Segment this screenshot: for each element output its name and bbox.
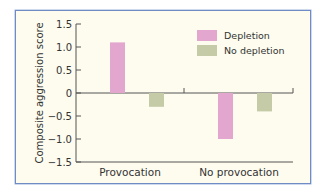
category-label: Provocation: [99, 166, 161, 178]
y-tick-label: 1.0: [56, 42, 72, 53]
bar: [149, 93, 164, 107]
y-tick-label: −0.5: [48, 111, 72, 122]
bars: [110, 42, 272, 139]
bar: [110, 42, 125, 93]
y-tick-label: 0: [66, 88, 72, 99]
y-tick-label: −1.5: [48, 157, 72, 168]
bar-chart: 1.51.00.50−0.5−1.0−1.5 ProvocationNo pro…: [0, 0, 327, 195]
legend-swatch-no-depletion: [197, 45, 217, 56]
y-tick-label: −1.0: [48, 134, 72, 145]
bar: [218, 93, 233, 139]
legend: Depletion No depletion: [197, 30, 285, 56]
category-label: No provocation: [199, 166, 279, 178]
legend-label-no-depletion: No depletion: [224, 45, 285, 56]
legend-label-depletion: Depletion: [224, 30, 270, 41]
y-axis-label: Composite aggression score: [34, 22, 45, 163]
category-labels: ProvocationNo provocation: [99, 166, 279, 178]
bar: [257, 93, 272, 111]
y-tick-label: 0.5: [56, 65, 72, 76]
y-tick-label: 1.5: [56, 19, 72, 30]
legend-swatch-depletion: [197, 30, 217, 41]
